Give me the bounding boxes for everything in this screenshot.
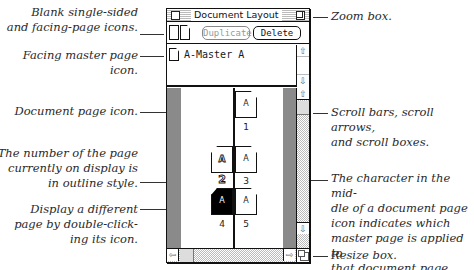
page-number: 3 — [235, 176, 257, 186]
master-char: A — [243, 196, 248, 205]
document-page-icon[interactable]: A — [235, 146, 257, 173]
vertical-scroll-box[interactable] — [297, 101, 309, 115]
scroll-left-arrow-icon[interactable]: ⇦ — [167, 249, 179, 261]
document-page-icon[interactable]: A — [235, 188, 257, 215]
callout-document-page-icon: Document page icon. — [0, 104, 138, 119]
document-page-icon[interactable]: A — [211, 146, 233, 173]
duplicate-button[interactable]: Duplicate — [202, 26, 250, 40]
callout-resize-box: Resize box. — [331, 248, 471, 263]
page-number: 1 — [235, 122, 257, 132]
document-pages-panel: A 1 A 2 A 3 A 4 A 5 ⇧ ⇩ — [167, 88, 309, 250]
delete-button[interactable]: Delete — [253, 26, 301, 40]
pasteboard-left — [167, 88, 181, 248]
vertical-scrollbar[interactable]: ⇧ ⇩ — [296, 88, 309, 248]
title-bar[interactable]: Document Layout — [167, 9, 309, 22]
horizontal-scrollbar[interactable]: ⇦ ⇨ — [167, 248, 309, 262]
master-item-a[interactable]: A-Master A — [169, 47, 289, 63]
close-box-icon[interactable] — [171, 11, 180, 20]
scroll-up-arrow-icon[interactable]: ⇧ — [297, 45, 309, 57]
master-scrollbar[interactable]: ⇧ ⇩ — [296, 45, 309, 87]
scroll-down-arrow-icon[interactable]: ⇩ — [297, 74, 309, 86]
callout-facing-master-icon: Facing master page icon. — [0, 48, 138, 78]
leader-line — [313, 113, 328, 114]
callout-blank-page-icons: Blank single-sided and facing-page icons… — [0, 5, 138, 35]
page-number: 4 — [211, 219, 233, 229]
toolbar: Duplicate Delete — [167, 22, 309, 44]
callout-current-page-outline: The number of the page currently on disp… — [0, 146, 138, 191]
master-pages-list: A-Master A ⇧ ⇩ — [167, 45, 309, 87]
page-number: 5 — [235, 219, 257, 229]
blank-facing-page-icon[interactable] — [180, 25, 190, 40]
scroll-up-arrow-icon[interactable]: ⇧ — [297, 88, 309, 100]
facing-master-page-icon — [169, 48, 179, 61]
callout-scroll-bars: Scroll bars, scroll arrows, and scroll b… — [331, 105, 474, 150]
master-char: A — [243, 99, 248, 108]
master-char: A — [219, 154, 226, 164]
document-page-icon[interactable]: A — [235, 91, 257, 118]
leader-line — [313, 17, 328, 18]
window-title: Document Layout — [191, 9, 282, 21]
master-label: A-Master A — [184, 48, 244, 62]
master-char: A — [219, 196, 224, 205]
scroll-down-arrow-icon[interactable]: ⇩ — [297, 222, 309, 234]
blank-single-sided-page-icon[interactable] — [169, 25, 179, 40]
callout-double-click-page: Display a different page by double-click… — [0, 202, 138, 247]
zoom-box-icon[interactable] — [296, 11, 305, 20]
horizontal-scroll-box[interactable] — [180, 249, 194, 262]
current-page-number: 2 — [211, 175, 233, 185]
pasteboard-right — [283, 88, 296, 248]
leader-line — [140, 56, 164, 57]
document-page-icon-selected[interactable]: A — [211, 188, 233, 215]
resize-box-icon[interactable] — [296, 249, 309, 262]
callout-zoom-box: Zoom box. — [331, 9, 471, 24]
leader-line — [313, 256, 328, 257]
master-char: A — [243, 154, 248, 163]
leader-line — [140, 34, 164, 35]
document-layout-window: Document Layout Duplicate Delete A-Maste… — [166, 8, 310, 263]
scroll-right-arrow-icon[interactable]: ⇨ — [283, 249, 295, 261]
